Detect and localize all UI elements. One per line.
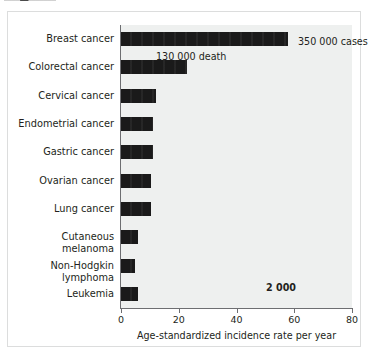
x-tick-label-0: 0 xyxy=(101,314,141,326)
bar-gastric-cancer xyxy=(121,145,153,159)
x-axis-title: Age-standardized incidence rate per year xyxy=(120,330,353,342)
figure-box: 020406080 Breast cancerColorectal cancer… xyxy=(7,11,361,347)
annotation-total-cases: 350 000 cases xyxy=(298,36,368,48)
bar-row xyxy=(121,223,138,251)
x-tick-0 xyxy=(121,309,122,313)
x-tick-20 xyxy=(179,309,180,313)
category-label-breast-cancer: Breast cancer xyxy=(8,33,114,45)
category-label-lung-cancer: Lung cancer xyxy=(8,203,114,215)
bar-row xyxy=(121,82,156,110)
bar-chart: 020406080 Breast cancerColorectal cancer… xyxy=(8,12,360,346)
x-tick-label-40: 40 xyxy=(217,314,257,326)
bar-leukemia xyxy=(121,287,138,301)
bar-endometrial-cancer xyxy=(121,117,153,131)
bar-row xyxy=(121,280,138,308)
annotation-total-deaths: 130 000 death xyxy=(156,51,226,63)
category-label-non-hodgkin-lymphoma: Non-Hodgkin lymphoma xyxy=(8,260,114,284)
category-label-gastric-cancer: Gastric cancer xyxy=(8,146,114,158)
bar-lung-cancer xyxy=(121,202,151,216)
category-label-leukemia: Leukemia xyxy=(8,288,114,300)
category-label-cutaneous-melanoma: Cutaneous melanoma xyxy=(8,231,114,255)
bar-row xyxy=(121,25,288,53)
x-tick-label-80: 80 xyxy=(332,314,369,326)
caption-fragment-bar xyxy=(4,0,56,1)
x-tick-40 xyxy=(237,309,238,313)
annotation-small-count: 2 000 xyxy=(266,282,296,294)
category-label-cervical-cancer: Cervical cancer xyxy=(8,90,114,102)
bar-colorectal-cancer xyxy=(121,60,187,74)
x-tick-60 xyxy=(294,309,295,313)
category-label-colorectal-cancer: Colorectal cancer xyxy=(8,61,114,73)
category-label-ovarian-cancer: Ovarian cancer xyxy=(8,175,114,187)
category-label-endometrial-cancer: Endometrial cancer xyxy=(8,118,114,130)
bar-row xyxy=(121,167,151,195)
x-tick-label-60: 60 xyxy=(274,314,314,326)
x-tick-80 xyxy=(352,309,353,313)
bar-row xyxy=(121,138,153,166)
bar-breast-cancer xyxy=(121,32,288,46)
bar-cutaneous-melanoma xyxy=(121,230,138,244)
bar-ovarian-cancer xyxy=(121,174,151,188)
bar-non-hodgkin-lymphoma xyxy=(121,259,135,273)
caption-fragment xyxy=(4,0,56,2)
x-tick-label-20: 20 xyxy=(159,314,199,326)
bar-row xyxy=(121,251,135,279)
bar-row xyxy=(121,110,153,138)
bar-cervical-cancer xyxy=(121,89,156,103)
bar-row xyxy=(121,195,151,223)
